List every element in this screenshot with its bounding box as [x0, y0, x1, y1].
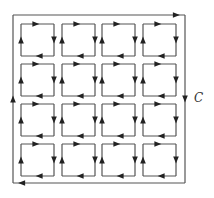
grid-cell [99, 101, 138, 139]
grid-cell [18, 21, 57, 59]
grid-cells [18, 21, 179, 179]
grid-cell [59, 141, 98, 179]
grid-cell [59, 101, 98, 139]
grid-cell [140, 61, 179, 99]
curve-label: C [194, 91, 203, 105]
grid-cell [18, 141, 57, 179]
diagram-canvas [0, 0, 214, 198]
grid-cell [99, 21, 138, 59]
grid-cell [99, 61, 138, 99]
grid-cell [99, 141, 138, 179]
grid-cell [140, 141, 179, 179]
grid-cell [140, 21, 179, 59]
grid-cell [59, 21, 98, 59]
outer-curve-c [10, 12, 188, 186]
grid-cell [140, 101, 179, 139]
grid-cell [18, 61, 57, 99]
grid-cell [59, 61, 98, 99]
grid-cell [18, 101, 57, 139]
